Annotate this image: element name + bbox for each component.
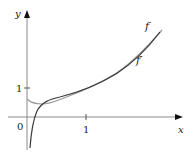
x-axis-arrow-icon [175, 114, 183, 120]
f-label: f [144, 20, 151, 33]
origin-label: 0 [17, 121, 23, 132]
curve-f [27, 30, 162, 104]
x-tick-1-label: 1 [83, 124, 89, 135]
y-axis-label: y [14, 8, 21, 19]
f-prime-label: f′ [135, 54, 143, 67]
curve-f-prime [30, 32, 160, 148]
chart: y x 0 1 1 f f′ [0, 0, 194, 153]
x-axis-label: x [178, 124, 184, 135]
y-tick-1-label: 1 [16, 83, 22, 94]
y-axis-arrow-icon [24, 10, 30, 18]
